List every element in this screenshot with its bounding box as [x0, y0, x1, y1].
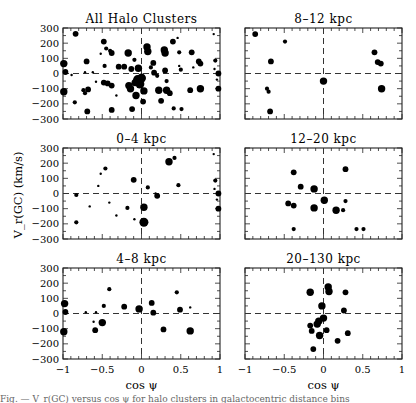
data-point	[133, 218, 135, 220]
data-point	[179, 107, 183, 111]
data-point	[92, 321, 94, 323]
x-tick-label: −1	[56, 364, 71, 375]
panel-4: 12–20 kpc	[245, 132, 402, 239]
data-point	[144, 48, 151, 55]
panel-6: 20–130 kpc−1−0.500.51cos ψ	[238, 252, 406, 392]
data-point	[140, 99, 146, 105]
data-point	[137, 74, 146, 83]
data-point	[198, 61, 204, 67]
data-point	[213, 68, 215, 70]
data-point	[140, 204, 147, 211]
data-point	[192, 66, 194, 68]
y-tick-label: 300	[40, 23, 59, 34]
data-point	[132, 58, 136, 62]
data-point	[109, 50, 115, 56]
data-point	[165, 79, 169, 83]
y-tick-label: 300	[40, 263, 59, 274]
panel-title: 12–20 kpc	[290, 132, 357, 146]
data-point	[84, 109, 90, 115]
data-point	[99, 319, 106, 326]
y-tick-label: −100	[32, 203, 59, 214]
data-point	[85, 87, 91, 93]
data-point	[189, 49, 195, 55]
data-point	[216, 191, 222, 197]
data-point	[321, 197, 328, 204]
data-point	[307, 289, 314, 296]
x-tick-label: 1	[217, 364, 223, 375]
y-tick-label: 100	[40, 293, 59, 304]
data-point	[84, 71, 86, 73]
data-point	[100, 173, 102, 175]
data-point	[146, 185, 150, 189]
data-point	[115, 94, 117, 96]
data-point	[63, 69, 69, 75]
data-point	[314, 320, 321, 327]
data-point	[128, 66, 134, 72]
x-tick-label: 0	[320, 364, 326, 375]
data-point	[179, 68, 183, 72]
data-point	[60, 88, 67, 95]
x-axis-label: cos ψ	[308, 378, 340, 392]
x-tick-label: 1	[399, 364, 405, 375]
data-point	[155, 87, 162, 94]
y-tick-label: −200	[32, 98, 59, 109]
data-point	[178, 65, 180, 67]
y-tick-label: −300	[32, 114, 59, 125]
data-point	[107, 287, 111, 291]
data-point	[216, 71, 222, 77]
data-point	[213, 188, 215, 190]
y-tick-label: 200	[40, 278, 59, 289]
y-tick-label: 0	[53, 308, 59, 319]
data-point	[95, 81, 97, 83]
data-point	[73, 31, 79, 37]
data-point	[345, 330, 351, 336]
data-point	[132, 92, 139, 99]
data-point	[103, 64, 107, 68]
panel-title: 4–8 kpc	[116, 252, 166, 266]
y-tick-label: −200	[32, 338, 59, 349]
panel-1: All Halo Clusters3002001000−100−200−300	[32, 12, 222, 125]
data-point	[216, 86, 222, 92]
x-tick-label: −0.5	[90, 364, 114, 375]
figure-caption: Fig. — V_r(GC) versus cos ψ for halo clu…	[0, 394, 416, 403]
data-point	[176, 37, 178, 39]
data-point	[372, 49, 378, 55]
data-point	[310, 185, 317, 192]
x-axis-label: cos ψ	[126, 378, 158, 392]
data-point	[378, 61, 384, 67]
data-point	[115, 214, 117, 216]
x-tick-label: −1	[238, 364, 253, 375]
data-point	[61, 300, 68, 307]
data-point	[318, 302, 325, 309]
data-point	[63, 309, 69, 315]
data-point	[291, 169, 297, 175]
data-point	[92, 327, 98, 333]
data-point	[177, 50, 181, 54]
data-point	[177, 307, 183, 313]
data-point	[131, 177, 137, 183]
data-point	[175, 290, 179, 294]
data-point	[324, 327, 330, 333]
data-point	[97, 185, 99, 187]
y-tick-label: −200	[32, 218, 59, 229]
data-point	[187, 327, 194, 334]
y-tick-label: −100	[32, 83, 59, 94]
data-point	[170, 39, 176, 45]
y-tick-label: −300	[32, 354, 59, 365]
data-point	[292, 227, 296, 231]
data-point	[354, 227, 358, 231]
data-point	[162, 68, 168, 74]
data-point	[129, 106, 135, 112]
data-point	[109, 83, 115, 89]
data-point	[268, 59, 274, 65]
data-point	[102, 304, 106, 308]
data-point	[298, 184, 304, 190]
panel-2: 8–12 kpc	[245, 12, 402, 119]
panel-title: 0–4 kpc	[116, 132, 166, 146]
data-point	[267, 90, 271, 94]
y-tick-label: 200	[40, 38, 59, 49]
data-point	[121, 64, 127, 70]
data-point	[283, 40, 287, 44]
data-point	[101, 39, 107, 45]
data-point	[158, 98, 164, 104]
